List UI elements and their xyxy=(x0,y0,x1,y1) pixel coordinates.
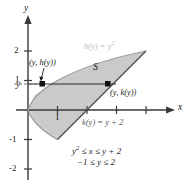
left-point-label: (y, h(y)) xyxy=(29,58,56,67)
y-axis-arrowhead xyxy=(24,15,31,24)
y-variable-tick-label: y xyxy=(16,80,20,90)
inequality-line-2: −1 ≤ y ≤ 2 xyxy=(77,158,115,167)
callout-arrow-head xyxy=(39,76,43,81)
y-tick-label-2: 2 xyxy=(14,46,19,55)
upper-curve-label-text: h(y) = y xyxy=(84,41,111,51)
point-marker-right xyxy=(105,81,111,87)
x-axis-arrowhead xyxy=(166,106,175,113)
y-tick-label-neg1: -1 xyxy=(9,135,17,144)
region-diagram-figure: y x 2 1 -1 -2 y 1 (y, h(y)) (y, k(y)) S … xyxy=(0,0,190,192)
x-axis-label: x xyxy=(178,103,182,113)
inequality-1-rest: ≤ x ≤ y + 2 xyxy=(79,146,121,156)
y-tick-label-neg2: -2 xyxy=(9,164,17,173)
region-label-s: S xyxy=(93,62,98,72)
callout-arrow-shaft xyxy=(42,68,45,78)
inequality-line-1: y2 ≤ x ≤ y + 2 xyxy=(72,145,121,156)
point-marker-left xyxy=(40,81,46,87)
lower-line-label: k(y) = y + 2 xyxy=(82,118,123,127)
y-axis-label: y xyxy=(24,4,28,14)
upper-curve-label-exponent: 2 xyxy=(111,39,114,46)
x-tick-label-1: 1 xyxy=(55,113,60,122)
right-point-label: (y, k(y)) xyxy=(110,88,136,97)
upper-curve-label: h(y) = y2 xyxy=(84,40,115,50)
